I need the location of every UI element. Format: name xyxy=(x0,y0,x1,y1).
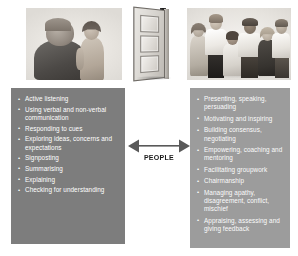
adult-hair-shape xyxy=(45,18,71,31)
list-item: Empowering, coaching and mentoring xyxy=(197,146,284,163)
diagram-canvas: Active listening Using verbal and non-ve… xyxy=(0,0,298,256)
cap-shape xyxy=(242,18,258,26)
door-panel-top xyxy=(140,15,159,33)
left-skills-panel: Active listening Using verbal and non-ve… xyxy=(11,88,125,244)
group-illustration xyxy=(187,8,291,80)
list-item: Signposting xyxy=(18,154,119,162)
left-skills-list: Active listening Using verbal and non-ve… xyxy=(18,95,119,195)
list-item: Facilitating groupwork xyxy=(197,166,284,174)
door-shadow xyxy=(137,76,171,80)
list-item: Active listening xyxy=(18,95,119,103)
list-item: Checking for understanding xyxy=(18,186,119,194)
open-door-illustration xyxy=(133,6,187,82)
door-panel-middle xyxy=(140,35,159,52)
people-connector: PEOPLE xyxy=(128,138,190,170)
right-skills-panel: Presenting, speaking, persuading Motivat… xyxy=(190,88,290,248)
list-item: Exploring ideas, concerns and expectatio… xyxy=(18,135,119,151)
child-arm-shape xyxy=(76,48,84,70)
list-item: Summarising xyxy=(18,165,119,173)
right-skills-list: Presenting, speaking, persuading Motivat… xyxy=(197,95,284,234)
door-leaf-shape xyxy=(133,7,165,82)
conversation-illustration xyxy=(26,8,122,80)
double-arrow-icon xyxy=(128,138,190,154)
list-item: Presenting, speaking, persuading xyxy=(197,95,284,112)
list-item: Using verbal and non-verbal communicatio… xyxy=(18,106,119,122)
list-item: Managing apathy, disagreement, conflict,… xyxy=(197,189,284,214)
list-item: Building consensus, negotiating xyxy=(197,126,284,143)
list-item: Responding to cues xyxy=(18,125,119,133)
door-panel-bottom xyxy=(140,55,159,73)
people-label: PEOPLE xyxy=(128,154,190,161)
list-item: Chairmanship xyxy=(197,177,284,185)
list-item: Appraising, assessing and giving feedbac… xyxy=(197,217,284,234)
list-item: Motivating and inspiring xyxy=(197,115,284,123)
list-item: Explaining xyxy=(18,176,119,184)
